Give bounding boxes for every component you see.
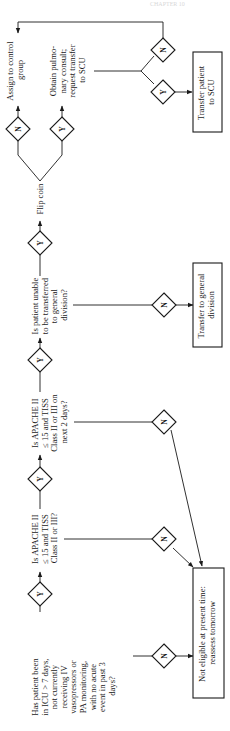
q1-text: Has patient been in ICU > 7 days, not cu… <box>30 656 117 715</box>
faint-header-text: CHAPTER 10 <box>150 1 185 7</box>
outcome-transfer-scu: Transfer patient to SCU <box>193 52 222 132</box>
svg-text:Y: Y <box>36 476 45 482</box>
decision-q4: Is patient unable to be transferred to g… <box>30 276 69 335</box>
yes-diamond-q3: Y <box>28 348 52 372</box>
outcome-not-eligible: Not eligible at present time: reassess t… <box>193 568 224 698</box>
icu-flowchart: CHAPTER 10 Has patient been in ICU > 7 d… <box>0 0 230 731</box>
decision-q3: Is APACHE II ≤ 15 and TISS Class II or I… <box>30 392 69 451</box>
no-diamond-flip: N <box>6 117 30 141</box>
svg-text:N: N <box>14 126 23 132</box>
no-diamond-q4: N <box>152 293 176 317</box>
decision-q2: Is APACHE II ≤ 15 and TISS Class II or I… <box>30 512 59 564</box>
svg-text:Y: Y <box>58 126 67 132</box>
yes-diamond-flip: Y <box>50 117 74 141</box>
yes-diamond-q1: Y <box>28 582 52 606</box>
q3-text: Is APACHE II ≤ 15 and TISS Class II or I… <box>30 392 69 451</box>
no-diamond-q3: N <box>152 410 176 434</box>
svg-text:Y: Y <box>36 357 45 363</box>
svg-text:N: N <box>159 47 168 53</box>
svg-text:N: N <box>160 419 169 425</box>
svg-text:Y: Y <box>36 240 45 246</box>
no-diamond-consult: N <box>151 38 175 62</box>
svg-text:N: N <box>160 302 169 308</box>
yes-diamond-q2: Y <box>28 467 52 491</box>
assign-control-group: Assign to control group <box>5 39 25 100</box>
svg-text:N: N <box>160 536 169 542</box>
no-diamond-q2: N <box>152 527 176 551</box>
no-diamond-q1: N <box>152 644 176 668</box>
svg-text:Obtain pulmo- nary consu: Obtain pulmo- nary consult; request tran… <box>48 42 87 97</box>
yes-diamond-consult: Y <box>151 80 175 104</box>
svg-text:Y: Y <box>36 591 45 597</box>
svg-text:Y: Y <box>159 89 168 95</box>
decision-q1: Has patient been in ICU > 7 days, not cu… <box>30 656 117 715</box>
svg-text:Assign to control group: Assign to control group <box>5 39 25 100</box>
q2-text: Is APACHE II ≤ 15 and TISS Class II or I… <box>30 512 59 564</box>
q4-text: Is patient unable to be transferred to g… <box>30 276 69 335</box>
outcome-transfer-general: Transfer to general division <box>193 263 222 347</box>
svg-text:N: N <box>160 653 169 659</box>
yes-diamond-q4: Y <box>28 231 52 255</box>
flip-coin-text: Flip coin <box>35 183 45 214</box>
obtain-consult: Obtain pulmo- nary consult; request tran… <box>48 42 87 97</box>
